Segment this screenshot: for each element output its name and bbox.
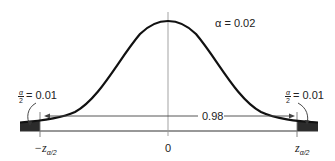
alpha-label: α = 0.02 (215, 18, 255, 29)
bell-curve (20, 21, 318, 123)
right-critical-label: zα/2 (295, 142, 310, 154)
left-tail-label: α 2 = 0.01 (18, 89, 57, 104)
left-tail-fraction: α 2 (18, 89, 24, 104)
right-tail-label: α 2 = 0.01 (285, 89, 324, 104)
right-tail-fraction: α 2 (285, 89, 291, 104)
center-label: 0 (165, 143, 171, 154)
normal-curve-diagram (0, 0, 335, 161)
arrowhead-right-icon (289, 114, 295, 119)
left-critical-label: −zα/2 (34, 142, 57, 154)
center-area-label: 0.98 (201, 111, 224, 122)
arrowhead-left-icon (44, 114, 50, 119)
